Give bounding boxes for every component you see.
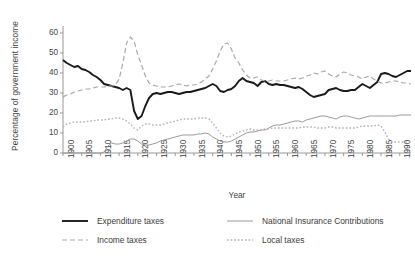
legend-item[interactable]: Income taxes bbox=[62, 233, 147, 247]
legend-label: Local taxes bbox=[262, 235, 304, 245]
legend-label: Expenditure taxes bbox=[97, 216, 164, 226]
plot-area bbox=[0, 0, 415, 200]
legend-swatch-dashed bbox=[62, 235, 88, 245]
legend-swatch-solid bbox=[227, 216, 253, 226]
chart-figure: Percentage of government income Year 010… bbox=[0, 0, 415, 261]
legend-swatch-dotted bbox=[227, 235, 253, 245]
legend-label: Income taxes bbox=[97, 235, 147, 245]
legend-item[interactable]: Local taxes bbox=[227, 233, 304, 247]
series-line-national-insurance-contributions bbox=[63, 115, 411, 153]
legend-item[interactable]: National Insurance Contributions bbox=[227, 214, 384, 228]
legend-swatch-solid bbox=[62, 216, 88, 226]
legend-label: National Insurance Contributions bbox=[262, 216, 384, 226]
series-line-expenditure-taxes bbox=[63, 60, 411, 119]
chart-legend: Expenditure taxesIncome taxesNational In… bbox=[0, 212, 415, 256]
legend-item[interactable]: Expenditure taxes bbox=[62, 214, 164, 228]
axis-spine bbox=[63, 26, 411, 153]
